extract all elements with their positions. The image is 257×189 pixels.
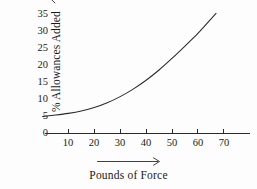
x-axis-label: Pounds of Force [89,169,167,181]
right-arrow-icon [96,156,162,167]
x-tick-label: 70 [212,137,236,148]
x-axis-tick-labels: 10 20 30 40 50 60 70 [0,137,257,151]
x-axis-ticks [68,129,223,134]
x-tick-label: 30 [108,137,132,148]
chart-figure: % Allowances Added 35 30 25 20 15 10 5 0 [0,0,257,189]
x-tick-label: 50 [160,137,184,148]
x-axis-caption-group: Pounds of Force [0,156,257,181]
x-tick-label: 60 [186,137,210,148]
x-tick-label: 20 [82,137,106,148]
x-tick-label: 40 [134,137,158,148]
data-curve [43,13,217,116]
x-tick-label: 10 [56,137,80,148]
